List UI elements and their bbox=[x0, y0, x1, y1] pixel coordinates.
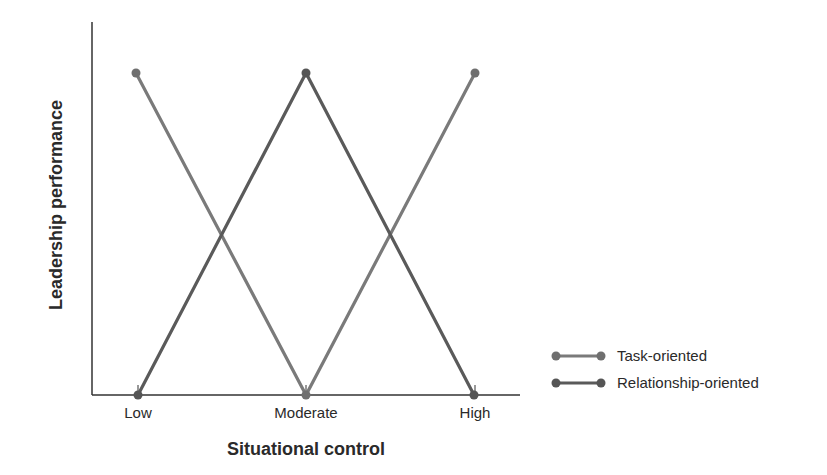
x-tick-moderate: Moderate bbox=[274, 404, 337, 421]
series-task-oriented bbox=[132, 69, 480, 400]
legend-item-task-oriented: Task-oriented bbox=[552, 347, 708, 364]
legend-item-relationship-oriented: Relationship-oriented bbox=[552, 374, 759, 391]
x-tick-low: Low bbox=[124, 404, 152, 421]
legend: Task-oriented Relationship-oriented bbox=[552, 347, 759, 391]
chart: Low Moderate High Situational control Le… bbox=[0, 0, 827, 475]
y-axis-title: Leadership performance bbox=[46, 100, 66, 310]
series-relationship-oriented bbox=[134, 69, 479, 400]
legend-label: Task-oriented bbox=[617, 347, 707, 364]
x-axis-title: Situational control bbox=[227, 439, 385, 459]
x-tick-high: High bbox=[460, 404, 491, 421]
legend-label: Relationship-oriented bbox=[617, 374, 759, 391]
